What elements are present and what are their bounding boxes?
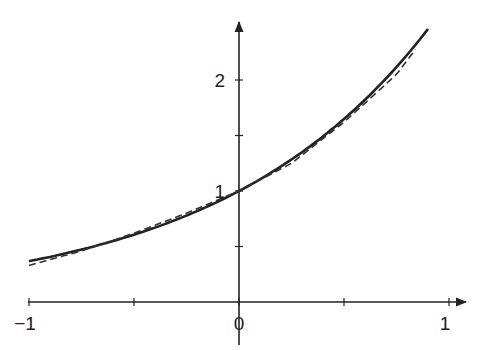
x-tick-label: 0	[234, 313, 245, 334]
solid-curve	[29, 29, 428, 261]
y-tick-label: 2	[214, 70, 225, 91]
x-tick-label: 1	[440, 313, 451, 334]
plot: −101 12	[0, 0, 481, 350]
x-ticks: −101	[14, 298, 450, 334]
x-tick-label: −1	[14, 313, 36, 334]
